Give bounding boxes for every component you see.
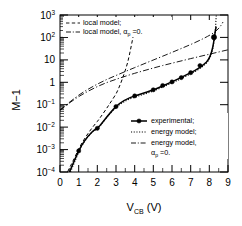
legend-bottom-label-energy-model-alphap0: energy model,	[151, 138, 197, 147]
x-axis-tick-labels: 0 1 2 3 4 5 6 7 8 9	[57, 177, 231, 188]
scatter-line-chart: 10−4 10−3 10−2 10−1 1 10 102 103 0 1 2 3…	[0, 0, 242, 226]
y-axis-minor-ticks	[60, 16, 64, 165]
legend-bottom: experimental; energy model; energy model…	[128, 113, 228, 159]
svg-text:8: 8	[207, 177, 213, 188]
legend-bottom-label-energy-model: energy model;	[151, 127, 197, 136]
svg-text:10−1: 10−1	[36, 98, 55, 110]
svg-text:0: 0	[57, 177, 63, 188]
svg-text:1: 1	[49, 77, 55, 88]
legend-bottom-label-alphap0-continuation: αp =0.	[151, 148, 170, 158]
svg-text:103: 103	[40, 9, 55, 21]
svg-text:10−3: 10−3	[36, 143, 55, 155]
svg-text:3: 3	[113, 177, 119, 188]
x-axis-title: VCB (V)	[127, 201, 162, 215]
legend-top-label-local-model: local model;	[83, 18, 121, 27]
y-axis-title: M−1	[10, 89, 22, 111]
svg-text:6: 6	[169, 177, 175, 188]
svg-text:4: 4	[132, 177, 138, 188]
curve-local-model	[68, 15, 138, 172]
curve-energy-model-alphap0	[60, 50, 228, 111]
svg-text:1: 1	[76, 177, 82, 188]
svg-text:102: 102	[40, 31, 55, 43]
svg-text:7: 7	[188, 177, 194, 188]
y-axis-tick-labels: 10−4 10−3 10−2 10−1 1 10 102 103	[36, 9, 55, 178]
svg-text:9: 9	[225, 177, 231, 188]
svg-text:10−4: 10−4	[36, 166, 55, 178]
legend-bottom-marker-experimental	[137, 119, 141, 123]
svg-text:10−2: 10−2	[36, 121, 55, 133]
svg-text:5: 5	[151, 177, 157, 188]
legend-bottom-label-experimental: experimental;	[151, 116, 194, 125]
svg-text:10: 10	[44, 54, 56, 65]
x-axis-ticks	[60, 165, 228, 172]
legend-top: local model; local model, αp =0.	[63, 17, 172, 37]
figure-container: 10−4 10−3 10−2 10−1 1 10 102 103 0 1 2 3…	[0, 0, 242, 226]
legend-top-label-local-model-alphap0: local model, αp =0.	[83, 27, 143, 37]
svg-text:2: 2	[95, 177, 101, 188]
